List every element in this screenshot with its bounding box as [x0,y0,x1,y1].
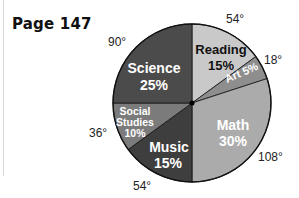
pie-center-dot [190,101,195,106]
label-science-percent: 25% [140,77,169,93]
label-music: Music [149,139,189,155]
degree-art: 18° [264,53,282,67]
pie-chart: Reading 15% Art 5% Math 30% Music 15% So… [0,0,299,198]
label-science: Science [128,60,181,76]
label-math-percent: 30% [219,133,248,149]
label-math: Math [217,117,250,133]
degree-music: 54° [133,179,151,193]
degree-social-studies: 36° [89,126,107,140]
degree-science: 90° [108,35,126,49]
degree-reading: 54° [226,12,244,26]
label-music-percent: 15% [154,155,183,171]
degree-math: 108° [258,150,283,164]
label-reading: Reading [195,42,246,57]
label-social-studies-percent: 10% [124,127,146,139]
